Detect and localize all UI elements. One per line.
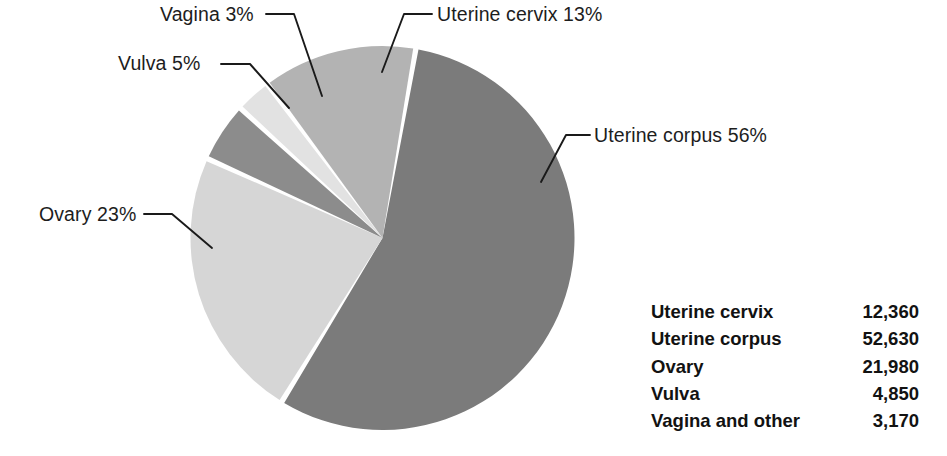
legend-row-name: Ovary — [651, 357, 845, 384]
legend-row-value: 12,360 — [845, 302, 919, 329]
legend-row-name: Uterine cervix — [651, 302, 845, 329]
pie-chart-page: Vagina 3% Vulva 5% Uterine cervix 13% Ut… — [0, 0, 947, 456]
callout-label-vagina: Vagina 3% — [160, 3, 254, 26]
legend-row-value: 4,850 — [845, 384, 919, 411]
callout-label-vulva: Vulva 5% — [118, 52, 200, 75]
legend-row: Vulva4,850 — [651, 384, 919, 411]
legend-row: Ovary21,980 — [651, 357, 919, 384]
legend-row-value: 3,170 — [845, 411, 919, 438]
callout-label-ovary: Ovary 23% — [39, 203, 136, 226]
legend-row-name: Vulva — [651, 384, 845, 411]
legend-row-value: 21,980 — [845, 357, 919, 384]
legend-row-name: Vagina and other — [651, 411, 845, 438]
callout-label-uterine-corpus: Uterine corpus 56% — [594, 124, 767, 147]
legend-table: Uterine cervix12,360Uterine corpus52,630… — [651, 302, 919, 439]
legend-row-name: Uterine corpus — [651, 329, 845, 356]
legend-row-value: 52,630 — [845, 329, 919, 356]
callout-label-uterine-cervix: Uterine cervix 13% — [437, 3, 602, 26]
legend-row: Vagina and other3,170 — [651, 411, 919, 438]
pie-slice-group — [190, 46, 575, 431]
legend-row: Uterine corpus52,630 — [651, 329, 919, 356]
legend-body: Uterine cervix12,360Uterine corpus52,630… — [651, 302, 919, 439]
legend-row: Uterine cervix12,360 — [651, 302, 919, 329]
